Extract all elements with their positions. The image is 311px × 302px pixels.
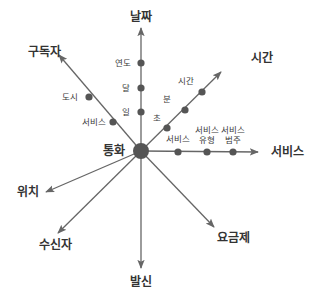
level-dot-date-1	[137, 84, 144, 91]
level-label-date-1: 달	[122, 83, 130, 93]
axis-arrow-service	[141, 151, 258, 152]
level-label-subscriber-1: 도시	[62, 92, 78, 102]
level-dot-subscriber-1	[85, 93, 92, 100]
level-label-time-1: 분	[163, 94, 171, 104]
level-dot-service-0	[174, 148, 181, 155]
axis-label-subscriber: 구독자	[28, 44, 61, 59]
labels-layer: 날짜일달연도시간초분시간서비스서비스서비스유형서비스범주구독자서비스도시요금제발…	[17, 9, 304, 289]
center-fact-label: 통화	[103, 143, 125, 158]
level-label-subscriber-0: 서비스	[82, 117, 106, 127]
axis-label-service: 서비스	[271, 144, 304, 159]
level-dot-date-2	[137, 59, 144, 66]
axis-label-time: 시간	[251, 50, 273, 65]
axis-arrow-plan	[141, 151, 214, 227]
level-label-date-0: 일	[122, 107, 130, 117]
axis-arrow-subscriber	[59, 55, 141, 151]
axis-label-location: 위치	[17, 184, 39, 199]
level-dot-service-1	[203, 148, 210, 155]
center-fact-node	[133, 143, 149, 159]
level-dot-subscriber-0	[109, 118, 116, 125]
axis-arrow-location	[46, 151, 141, 192]
level-label-service-1: 서비스유형	[195, 125, 219, 145]
level-dot-time-1	[181, 106, 188, 113]
axis-label-date: 날짜	[130, 9, 152, 24]
axis-arrow-receiver	[58, 151, 141, 233]
axis-label-plan: 요금제	[217, 231, 250, 245]
level-dot-date-0	[137, 108, 144, 115]
level-label-time-2: 시간	[178, 76, 194, 86]
level-label-time-0: 초	[153, 113, 161, 123]
dimension-diagram: 날짜일달연도시간초분시간서비스서비스서비스유형서비스범주구독자서비스도시요금제발…	[0, 0, 311, 302]
level-dot-time-2	[198, 88, 205, 95]
axis-label-caller: 발신	[130, 274, 152, 289]
level-dot-service-2	[229, 148, 236, 155]
level-label-service-2: 서비스범주	[221, 125, 245, 145]
axis-label-receiver: 수신자	[39, 237, 72, 252]
level-dot-time-0	[163, 124, 170, 131]
level-label-service-0: 서비스	[166, 134, 190, 144]
level-label-date-2: 연도	[115, 58, 131, 68]
